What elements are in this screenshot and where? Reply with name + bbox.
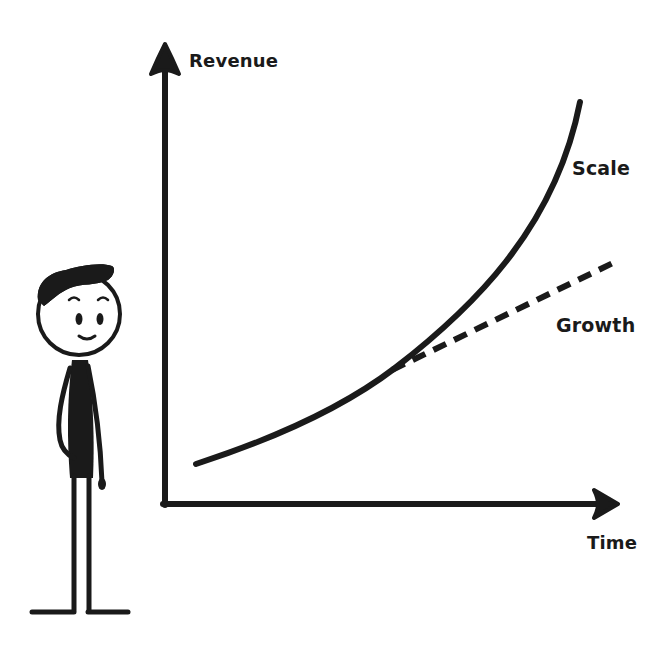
arrow-up-icon <box>151 44 179 74</box>
x-axis <box>163 490 618 518</box>
left-eye <box>76 313 83 325</box>
smile <box>79 336 95 339</box>
diagram-canvas: Revenue Scale Growth Time <box>0 0 664 648</box>
arrow-right-icon <box>594 490 618 518</box>
growth-label: Growth <box>556 314 635 336</box>
y-axis <box>151 44 179 505</box>
right-eye <box>97 313 104 325</box>
y-axis-label: Revenue <box>189 50 278 71</box>
scale-curve <box>196 102 580 464</box>
x-axis-label: Time <box>587 532 637 553</box>
stick-figure <box>32 264 128 612</box>
scale-label: Scale <box>572 157 630 179</box>
